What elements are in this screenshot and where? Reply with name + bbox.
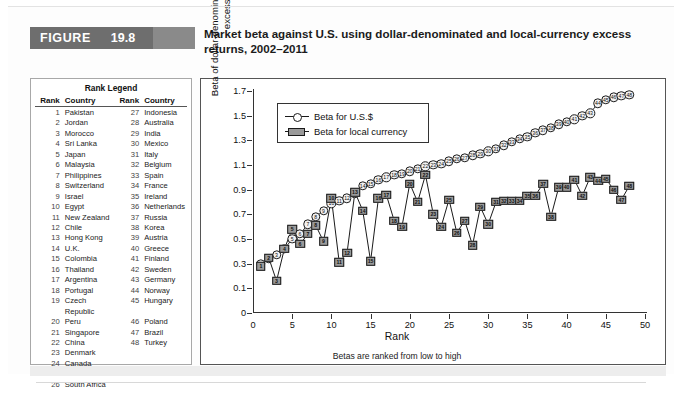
y-tick-mark	[247, 288, 252, 289]
cell-rank-2: 36	[114, 202, 144, 212]
legend-row: 11New Zealand37Russia	[35, 213, 187, 223]
y-tick-label: 1.5	[233, 111, 246, 121]
cell-rank: 23	[35, 348, 65, 358]
y-axis-label: Beta of dollar-denominated and local-cur…	[209, 0, 233, 101]
cell-rank: 13	[35, 233, 65, 243]
cell-rank: 10	[35, 202, 65, 212]
legend-row: 6Malaysia32Belgium	[35, 160, 187, 170]
cell-country: Colombia	[65, 254, 115, 264]
header-rank: Rank	[35, 96, 65, 105]
data-point-local: 41	[570, 176, 580, 184]
figure-card: FIGURE 19.8 Market beta against U.S. usi…	[8, 6, 674, 374]
open-circle-icon	[284, 111, 310, 123]
data-point-local: 11	[334, 258, 344, 266]
cell-rank-2: 42	[114, 265, 144, 275]
cell-rank-2: 34	[114, 181, 144, 191]
legend-row: 17Argentina43Germany	[35, 275, 187, 285]
data-point-local: 6	[295, 240, 305, 248]
legend-row: 21Singapore47Brazil	[35, 328, 187, 338]
plot-area: Beta of dollar-denominated and local-cur…	[253, 91, 645, 313]
cell-rank: 9	[35, 192, 65, 202]
cell-rank-2: 29	[114, 129, 144, 139]
cell-rank: 15	[35, 254, 65, 264]
x-axis-label: Rank	[201, 331, 593, 342]
legend-entry-local: Beta for local currency	[284, 124, 422, 139]
cell-country-2: Norway	[144, 286, 187, 296]
cell-country-2: Australia	[144, 118, 187, 128]
x-tick-mark	[371, 314, 372, 319]
y-tick-label: 1.1	[233, 160, 246, 170]
cell-country-2: Belgium	[144, 160, 187, 170]
legend-row: 23Denmark	[35, 348, 187, 358]
rank-legend-header: Rank Country Rank Country	[35, 96, 187, 107]
legend-label-local: Beta for local currency	[314, 126, 407, 137]
cell-country: Peru	[65, 317, 115, 327]
cell-country: Argentina	[65, 275, 115, 285]
cell-rank-2: 28	[114, 118, 144, 128]
x-tick-mark	[292, 314, 293, 319]
cell-rank: 12	[35, 223, 65, 233]
x-tick-mark	[488, 314, 489, 319]
legend-row: 5Japan31Italy	[35, 150, 187, 160]
chart-panel: Beta of dollar-denominated and local-cur…	[200, 78, 666, 365]
y-tick-mark	[247, 140, 252, 141]
data-point-local: 45	[601, 174, 611, 182]
header-country-2: Country	[144, 96, 187, 105]
data-point-local: 12	[342, 248, 352, 256]
cell-rank-2: 32	[114, 160, 144, 170]
cell-rank-2	[114, 348, 144, 358]
y-tick-mark	[247, 264, 252, 265]
legend-row: 22China48Turkey	[35, 338, 187, 348]
legend-label-usd: Beta for U.S.$	[314, 111, 373, 122]
cell-rank-2: 43	[114, 275, 144, 285]
y-tick-mark	[247, 116, 252, 117]
data-point-local: 15	[366, 257, 376, 265]
y-tick-label: 0.3	[233, 259, 246, 269]
cell-rank: 16	[35, 265, 65, 275]
cell-rank: 5	[35, 150, 65, 160]
cell-country: Denmark	[65, 348, 115, 358]
cell-rank: 18	[35, 286, 65, 296]
cell-rank: 1	[35, 108, 65, 118]
header-country: Country	[65, 96, 115, 105]
cell-country-2: Spain	[144, 171, 187, 181]
legend-row: 16Thailand42Sweden	[35, 265, 187, 275]
y-tick-mark	[247, 313, 252, 314]
legend-row: 2Jordan28Australia	[35, 118, 187, 128]
cell-rank-2: 27	[114, 108, 144, 118]
cell-rank-2: 47	[114, 328, 144, 338]
data-point-local: 8	[311, 221, 321, 229]
data-point-local: 36	[530, 192, 540, 200]
cell-country: Thailand	[65, 265, 115, 275]
figure-badge: FIGURE 19.8	[30, 27, 195, 49]
cell-rank-2: 46	[114, 317, 144, 327]
y-tick-mark	[247, 91, 252, 92]
cell-rank: 17	[35, 275, 65, 285]
x-tick-label: 40	[561, 320, 571, 330]
data-point-local: 26	[452, 229, 462, 237]
cell-rank: 20	[35, 317, 65, 327]
cell-country-2: Italy	[144, 150, 187, 160]
chart-legend: Beta for U.S.$ Beta for local currency	[277, 103, 429, 143]
cell-country: China	[65, 338, 115, 348]
x-tick-label: 30	[483, 320, 493, 330]
figure-title: Market beta against U.S. using dollar-de…	[204, 26, 666, 56]
x-tick-label: 15	[365, 320, 375, 330]
footer-band	[30, 366, 666, 376]
data-point-local: 20	[405, 179, 415, 187]
cell-country: Jordan	[65, 118, 115, 128]
cell-rank: 14	[35, 244, 65, 254]
cell-rank: 6	[35, 160, 65, 170]
cell-country: Switzerland	[65, 181, 115, 191]
cell-rank-2: 38	[114, 223, 144, 233]
y-tick-label: 0	[241, 308, 246, 318]
data-point-local: 37	[538, 179, 548, 187]
y-tick-mark	[247, 239, 252, 240]
cell-country: Chile	[65, 223, 115, 233]
y-tick-label: 0.1	[233, 283, 246, 293]
cell-country: Singapore	[65, 328, 115, 338]
cell-country-2: Netherlands	[144, 202, 187, 212]
cell-rank-2: 45	[114, 296, 144, 317]
legend-row: 14U.K.40Greece	[35, 244, 187, 254]
cell-country: Egypt	[65, 202, 115, 212]
